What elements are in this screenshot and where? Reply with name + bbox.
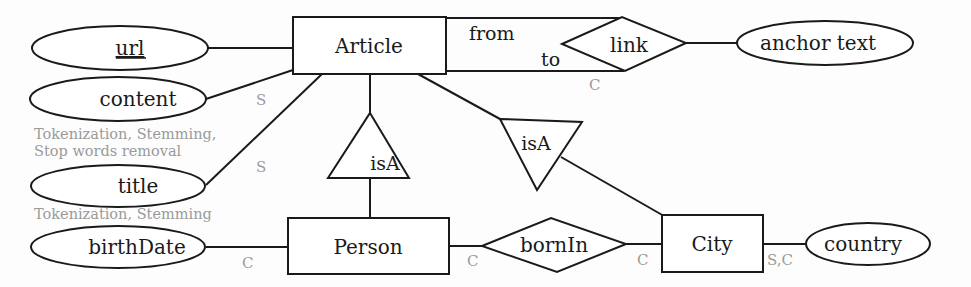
annotation-content-note-line2: Stop words removal xyxy=(34,143,182,159)
entity-article[interactable]: Article xyxy=(293,17,446,74)
attribute-birthdate[interactable]: birthDate xyxy=(31,226,205,268)
annotation-content-note-line1: Tokenization, Stemming, xyxy=(34,126,216,142)
entity-city[interactable]: City xyxy=(662,215,763,272)
isa-person-label: isA xyxy=(370,152,400,174)
annotation-person-bornin-c: C xyxy=(467,252,478,270)
isa-city-triangle[interactable]: isA xyxy=(500,119,582,190)
annotation-content-s: S xyxy=(256,91,266,109)
annotation-link-c: C xyxy=(589,76,600,94)
entity-city-label: City xyxy=(691,232,733,256)
attribute-content-label: content xyxy=(100,87,177,111)
attribute-country[interactable]: country xyxy=(806,223,930,265)
relationship-bornin-label: bornIn xyxy=(520,233,588,257)
attribute-title[interactable]: title xyxy=(31,165,205,207)
attribute-anchor-text[interactable]: anchor text xyxy=(737,21,913,65)
annotation-birthdate-c: C xyxy=(242,254,253,272)
er-diagram: Article Person City link from to bornIn … xyxy=(0,0,971,287)
attribute-url[interactable]: url xyxy=(32,26,208,70)
role-from-label: from xyxy=(469,22,515,44)
attribute-anchor-text-label: anchor text xyxy=(760,31,876,55)
attribute-birthdate-label: birthDate xyxy=(88,235,186,259)
edge-article-isa-city xyxy=(418,74,500,119)
attribute-title-label: title xyxy=(118,174,159,198)
attribute-country-label: country xyxy=(824,232,903,256)
attribute-content[interactable]: content xyxy=(30,77,206,121)
annotation-city-bornin-c: C xyxy=(637,251,648,269)
isa-city-label: isA xyxy=(521,132,551,154)
entity-person[interactable]: Person xyxy=(288,218,449,274)
role-to-label: to xyxy=(541,48,560,70)
relationship-bornin[interactable]: bornIn xyxy=(482,218,626,272)
isa-person-triangle[interactable]: isA xyxy=(328,113,409,178)
edge-isa-city-city xyxy=(561,157,664,216)
annotation-title-note: Tokenization, Stemming xyxy=(34,206,212,222)
annotation-city-country-sc: S,C xyxy=(767,251,793,269)
annotation-title-s: S xyxy=(256,158,266,176)
relationship-link-label: link xyxy=(610,33,649,57)
entity-article-label: Article xyxy=(334,34,403,58)
edge-content-article xyxy=(206,70,293,99)
relationship-link[interactable]: link xyxy=(562,17,686,71)
entity-person-label: Person xyxy=(333,235,402,259)
attribute-url-label: url xyxy=(116,36,145,60)
